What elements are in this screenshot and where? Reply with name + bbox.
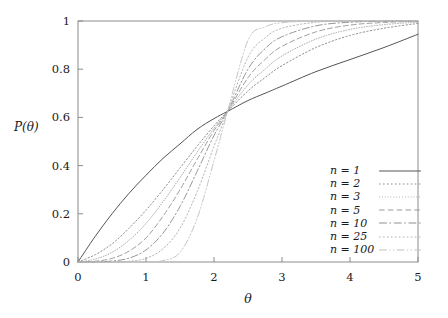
legend-swatch-n-2 (378, 178, 422, 190)
legend-label-n-100: n = 100 (330, 243, 378, 256)
ytick-label-0-2: 0.2 (32, 207, 70, 221)
legend-item-n-1[interactable]: n = 1 (330, 164, 422, 177)
ytick-label-1: 1 (44, 14, 70, 28)
chart-legend: n = 1n = 2n = 3n = 5n = 10n = 25n = 100 (330, 164, 422, 256)
y-axis-label: P(θ) (14, 120, 39, 134)
xtick-label-0: 0 (74, 270, 81, 284)
legend-label-n-25: n = 25 (330, 230, 378, 243)
legend-swatch-n-1 (378, 165, 422, 177)
legend-swatch-n-100 (378, 244, 422, 256)
legend-label-n-10: n = 10 (330, 217, 378, 230)
chart-figure: 1 0.8 0.6 0.4 0.2 0 0 1 2 3 4 5 P(θ) θ n… (0, 0, 448, 318)
legend-item-n-25[interactable]: n = 25 (330, 230, 422, 243)
x-axis-label: θ (244, 291, 252, 306)
legend-swatch-n-10 (378, 217, 422, 229)
legend-label-n-1: n = 1 (330, 164, 378, 177)
xtick-label-4: 4 (346, 270, 353, 284)
legend-label-n-2: n = 2 (330, 177, 378, 190)
xtick-label-3: 3 (278, 270, 285, 284)
legend-item-n-3[interactable]: n = 3 (330, 190, 422, 203)
legend-swatch-n-3 (378, 191, 422, 203)
legend-swatch-n-25 (378, 231, 422, 243)
legend-label-n-5: n = 5 (330, 204, 378, 217)
xtick-label-2: 2 (210, 270, 217, 284)
legend-item-n-100[interactable]: n = 100 (330, 243, 422, 256)
legend-item-n-10[interactable]: n = 10 (330, 217, 422, 230)
legend-swatch-n-5 (378, 204, 422, 216)
ytick-label-0-4: 0.4 (32, 159, 70, 173)
legend-item-n-5[interactable]: n = 5 (330, 204, 422, 217)
xtick-label-1: 1 (142, 270, 149, 284)
legend-label-n-3: n = 3 (330, 190, 378, 203)
xtick-label-5: 5 (414, 270, 421, 284)
legend-item-n-2[interactable]: n = 2 (330, 177, 422, 190)
ytick-label-0-8: 0.8 (32, 62, 70, 76)
ytick-label-0: 0 (44, 255, 70, 269)
